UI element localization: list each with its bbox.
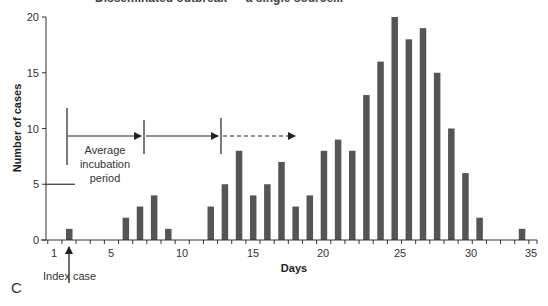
bar-day-24 — [377, 62, 384, 240]
y-tick-label: 5 — [33, 178, 39, 190]
axes-group: 0510152015101520253035DaysNumber of case… — [11, 11, 537, 274]
bar-day-22 — [349, 151, 356, 240]
y-tick-label: 15 — [27, 67, 39, 79]
bar-day-12 — [208, 207, 215, 240]
x-tick-label: 1 — [51, 247, 57, 259]
bar-day-18 — [292, 207, 299, 240]
bar-day-23 — [363, 95, 370, 240]
x-tick-label: 20 — [317, 247, 329, 259]
bar-day-31 — [476, 218, 483, 240]
bar-day-20 — [321, 151, 328, 240]
bar-chart: 0510152015101520253035DaysNumber of case… — [0, 0, 548, 306]
bar-day-8 — [151, 195, 158, 240]
incubation-label-line: Average — [85, 144, 126, 156]
bar-day-21 — [335, 140, 342, 240]
x-tick-label: 35 — [525, 247, 537, 259]
bar-day-28 — [434, 73, 441, 240]
x-tick-label: 25 — [394, 247, 406, 259]
bar-day-2 — [66, 229, 73, 240]
x-tick-label: 5 — [108, 247, 114, 259]
bar-day-30 — [462, 173, 469, 240]
bar-day-17 — [278, 162, 285, 240]
x-tick-label: 10 — [176, 247, 188, 259]
x-tick-label: 30 — [465, 247, 477, 259]
bar-day-16 — [264, 184, 271, 240]
bar-day-14 — [236, 151, 243, 240]
x-tick-label: 15 — [247, 247, 259, 259]
incubation-label-line: incubation — [80, 158, 130, 170]
bar-day-15 — [250, 195, 257, 240]
index-case-label: Index case — [43, 270, 96, 282]
y-tick-label: 10 — [27, 123, 39, 135]
bar-day-34 — [519, 229, 526, 240]
x-axis-title: Days — [281, 262, 307, 274]
bars-group — [66, 17, 525, 240]
y-tick-label: 0 — [33, 234, 39, 246]
y-tick-label: 20 — [27, 11, 39, 23]
bar-day-25 — [391, 17, 398, 240]
bar-day-29 — [448, 129, 455, 241]
panel-label: C — [11, 279, 22, 296]
y-axis-title: Number of cases — [11, 84, 23, 173]
bar-day-27 — [420, 28, 427, 240]
bar-day-26 — [406, 39, 413, 240]
incubation-label-line: period — [90, 172, 121, 184]
bar-day-13 — [222, 184, 229, 240]
bar-day-6 — [123, 218, 130, 240]
bar-day-19 — [307, 195, 314, 240]
bar-day-9 — [165, 229, 172, 240]
bar-day-7 — [137, 207, 144, 240]
